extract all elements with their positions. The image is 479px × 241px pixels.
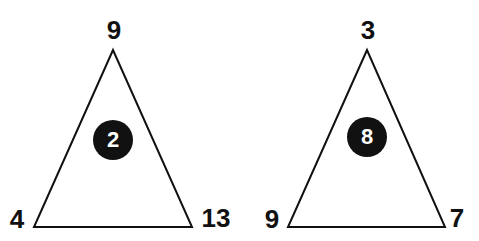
triangle-1-top-number: 9 (107, 17, 121, 43)
triangle-2-bottom-right-number: 7 (450, 205, 464, 231)
triangle-1-bottom-right-number: 13 (202, 205, 231, 231)
triangle-2-center-circle: 8 (347, 117, 387, 157)
triangle-2-top-number: 3 (361, 17, 375, 43)
number-triangle-puzzle: 9 4 13 2 3 9 7 8 (0, 0, 479, 241)
triangle-outlines (0, 0, 479, 241)
triangle-2-bottom-left-number: 9 (265, 206, 279, 232)
triangle-1-center-circle: 2 (93, 120, 133, 160)
triangle-1-bottom-left-number: 4 (10, 206, 24, 232)
